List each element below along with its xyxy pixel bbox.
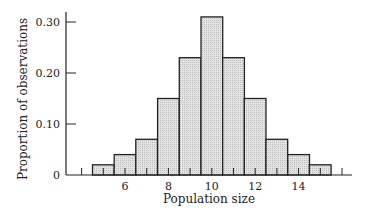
y-axis-label: Proportion of observations [16,18,30,180]
x-tick-label: 6 [122,180,129,193]
y-tick-label: 0.30 [36,16,61,29]
histogram-chart: 00.100.200.3068101214 Proportion of obse… [0,0,373,224]
histogram-bar [223,58,245,175]
histogram-bar [201,17,223,175]
chart-canvas: 00.100.200.3068101214 Proportion of obse… [0,0,373,224]
y-tick-label: 0 [53,169,60,182]
histogram-bar [158,99,180,176]
histogram-bar [244,99,266,176]
y-tick-label: 0.10 [36,118,61,131]
histogram-bar [179,58,201,175]
x-tick-label: 14 [292,180,306,193]
x-axis-label: Population size [163,192,255,206]
bars [93,17,332,175]
y-tick-label: 0.20 [36,67,61,80]
